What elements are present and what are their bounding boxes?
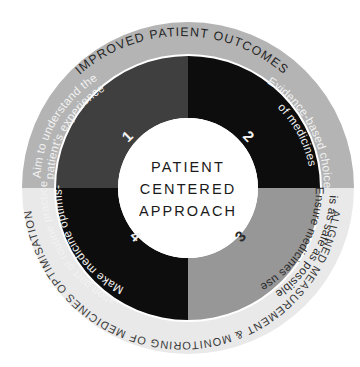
center-line-3: APPROACH [139,203,237,219]
diagram-svg: IMPROVED PATIENT OUTCOMES ALIGNED MEASUR… [0,0,360,367]
center-label-group: PATIENT CENTERED APPROACH [139,159,237,219]
center-line-2: CENTERED [140,181,237,197]
center-line-1: PATIENT [151,159,225,175]
patient-centered-approach-diagram: IMPROVED PATIENT OUTCOMES ALIGNED MEASUR… [0,0,360,367]
